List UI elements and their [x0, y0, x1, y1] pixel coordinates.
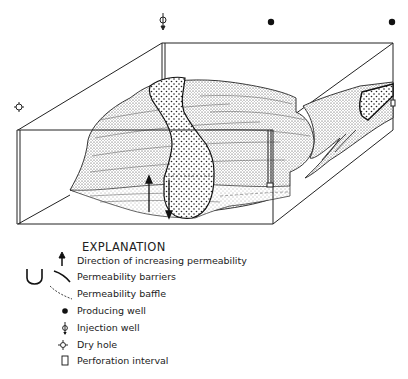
right-sand-lobe — [303, 82, 393, 178]
reservoir-block-diagram — [0, 0, 408, 379]
injection-well-symbol — [160, 13, 166, 30]
producing-well-symbol — [268, 19, 274, 25]
producing-well-symbol — [389, 19, 395, 25]
main-sand-body — [70, 77, 314, 218]
legend-symbols — [27, 252, 72, 365]
dry-hole-symbol — [14, 102, 24, 112]
